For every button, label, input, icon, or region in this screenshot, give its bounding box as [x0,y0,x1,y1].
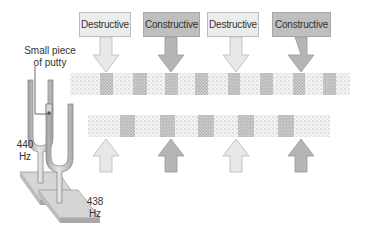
up-arrow-icon [93,139,119,172]
fork-438-frequency: 438 [84,196,106,208]
constructive-label-1: Constructive [143,12,200,37]
down-arrow-icon [93,37,119,72]
fork-440-frequency: 440 [14,139,36,151]
lower-wave-band [88,115,330,137]
putty-label-line2: of putty [22,57,78,69]
putty-label-line1: Small piece [22,45,78,57]
down-arrow-icon [158,37,184,72]
putty-leader-line [35,66,47,114]
fork-438-unit: Hz [84,208,106,220]
fork-440-label: 440 Hz [14,139,36,163]
destructive-label-1: Destructive [79,12,131,37]
upper-wave-band [70,73,350,95]
fork-438-label: 438 Hz [84,196,106,220]
down-arrow-icon [288,37,314,72]
putty-icon [46,104,52,115]
destructive-label-2: Destructive [207,12,259,37]
up-arrow-icon [158,139,184,172]
up-arrow-icon [288,139,314,172]
beats-diagram: Destructive Constructive Destructive Con… [0,0,365,244]
up-arrow-icon [223,139,249,172]
down-arrow-icon [223,37,249,72]
fork-440-unit: Hz [14,151,36,163]
constructive-label-2: Constructive [272,12,331,37]
putty-label: Small piece of putty [22,45,78,69]
